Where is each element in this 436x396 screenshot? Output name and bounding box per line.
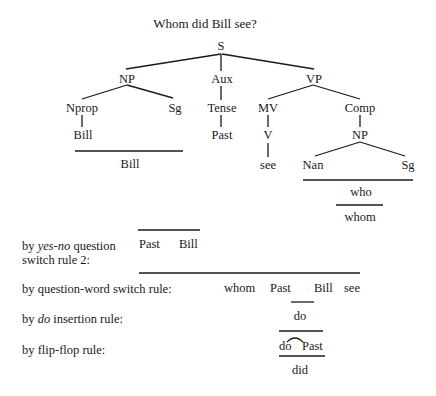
node-V: V [263, 128, 272, 142]
rule2-word-past: Past [270, 281, 291, 295]
node-Nprop: Nprop [66, 101, 98, 115]
node-Sg: Sg [168, 101, 181, 115]
rule2-word-bill: Bill [314, 281, 333, 295]
leaf-Bill: Bill [74, 128, 93, 142]
node-Sg2: Sg [401, 158, 414, 172]
result-whom: whom [344, 210, 375, 224]
rule-label-flip-flop: by flip-flop rule: [22, 343, 105, 357]
node-NP2: NP [352, 128, 368, 142]
rule1-word-past: Past [139, 237, 160, 251]
node-S: S [218, 39, 225, 53]
node-VP: VP [306, 72, 322, 86]
rule-label-yes-no: by yes-no question [22, 239, 116, 253]
rule1-word-bill: Bill [179, 237, 198, 251]
node-Nan: Nan [303, 158, 324, 172]
node-NP: NP [119, 72, 135, 86]
rule-label-do-insertion: by do insertion rule: [22, 312, 123, 326]
diagram-title: Whom did Bill see? [153, 17, 257, 31]
rule4-word-past: Past [302, 339, 323, 353]
node-Comp: Comp [345, 101, 376, 115]
node-Aux: Aux [211, 72, 233, 86]
node-Tense: Tense [208, 101, 237, 115]
result-who: who [350, 185, 372, 199]
rule3-word-do: do [294, 309, 307, 323]
rule2-word-see: see [344, 281, 360, 295]
leaf-Past: Past [212, 128, 233, 142]
rule4-output-did: did [292, 363, 308, 377]
node-MV: MV [258, 101, 278, 115]
syntax-tree-diagram: Whom did Bill see? S NP Aux VP Nprop Sg … [0, 0, 436, 396]
rule2-word-whom: whom [224, 281, 255, 295]
leaf-see: see [260, 158, 276, 172]
result-Bill: Bill [121, 157, 140, 171]
rule-label-question-word: by question-word switch rule: [22, 282, 172, 296]
rule-label-yes-no-line2: switch rule 2: [22, 253, 90, 267]
rule4-word-do: do [279, 339, 292, 353]
